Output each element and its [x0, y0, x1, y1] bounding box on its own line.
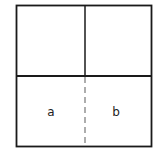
region-label-a: a	[47, 105, 54, 119]
diagram-canvas: a b	[0, 0, 164, 163]
region-label-b: b	[112, 105, 120, 119]
